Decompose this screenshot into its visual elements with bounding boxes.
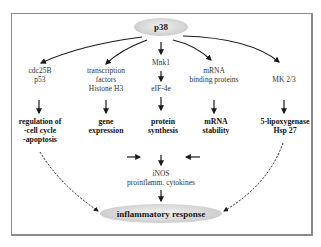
gene-expression-node: gene expression <box>89 117 124 135</box>
transcription-factors-node: transcription factors Histone H3 <box>87 66 125 93</box>
p38-node: p38 <box>134 18 188 36</box>
edge-lipox-inflam <box>224 143 283 211</box>
cdc25b-p53-node: cdc25B p53 <box>29 66 52 84</box>
p38-label: p38 <box>154 22 168 32</box>
mk23-node: MK 2/3 <box>272 75 296 84</box>
edge-regulation-inflam <box>40 152 98 211</box>
protein-synthesis-node: protein synthesis <box>148 117 178 135</box>
edge-p38-mrna-bp <box>173 40 211 60</box>
mrna-stability-node: mRNA stability <box>203 117 230 135</box>
regulation-node: regulation of -cell cycle -apoptosis <box>19 117 62 144</box>
eif4e-node: eIF-4e <box>151 84 171 93</box>
inos-cytokines-node: iNOS proinflamm. cytokines <box>127 169 195 187</box>
edge-p38-tf <box>106 40 147 64</box>
mnk1-node: Mnk1 <box>152 58 170 67</box>
inflammatory-response-label: inflammatory response <box>117 209 206 219</box>
mrna-binding-proteins-node: mRNA binding proteins <box>190 66 239 84</box>
edge-p38-cdc25b <box>41 37 142 63</box>
lipoxygenase-hsp27-node: 5-lipoxygenase Hsp 27 <box>261 117 310 135</box>
inflammatory-response-node: inflammatory response <box>100 204 222 223</box>
